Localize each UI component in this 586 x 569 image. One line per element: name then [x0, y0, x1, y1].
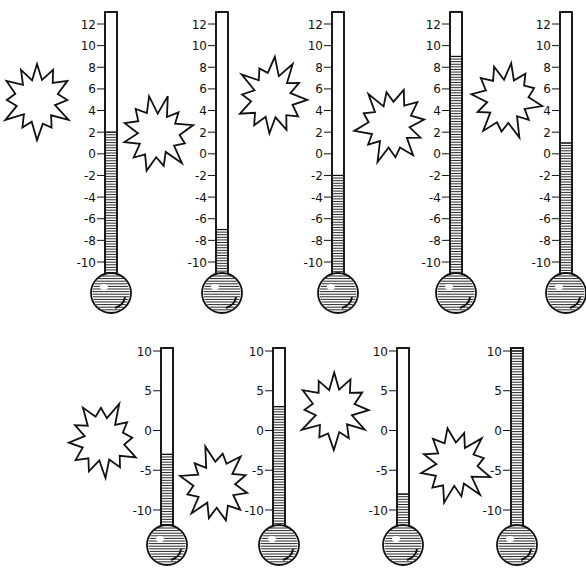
scale-label: 6: [433, 82, 441, 96]
mercury-column: [274, 407, 284, 527]
scale-label: -4: [539, 191, 551, 205]
scale-label: 0: [315, 147, 323, 161]
scale-label: 12: [308, 18, 323, 32]
scale-label: 2: [199, 126, 207, 140]
scale-label: -6: [195, 212, 207, 226]
scale-label: 12: [426, 18, 441, 32]
scale-label: 0: [256, 424, 264, 438]
scale-label: 5: [494, 384, 502, 398]
scale-label: -5: [140, 464, 152, 478]
scale-label: 6: [315, 82, 323, 96]
scale-label: 5: [144, 384, 152, 398]
bulb-icon: [546, 273, 586, 313]
scale-label: 5: [256, 384, 264, 398]
scale-label: 0: [433, 147, 441, 161]
scale-label: 2: [433, 126, 441, 140]
scale-label: 10: [249, 345, 264, 359]
scale-label: 0: [380, 424, 388, 438]
scale-label: -5: [376, 464, 388, 478]
thermometer-9: 1050-5-10: [482, 345, 537, 566]
thermometer-7: 1050-5-10: [244, 345, 299, 566]
bulb-icon: [436, 273, 476, 313]
scale-label: -8: [429, 234, 441, 248]
scale-label: -2: [84, 169, 96, 183]
scale-label: 10: [426, 39, 441, 53]
scale-label: 10: [137, 345, 152, 359]
bulb-icon: [497, 525, 537, 565]
scale-label: 0: [199, 147, 207, 161]
scale-label: 10: [81, 39, 96, 53]
scale-label: 12: [81, 18, 96, 32]
answer-burst-5: [472, 63, 543, 137]
scale-label: 10: [536, 39, 551, 53]
scale: 121086420-2-4-6-8-10: [76, 18, 105, 270]
scale-label: -2: [311, 169, 323, 183]
scale-label: 10: [487, 345, 502, 359]
scale-label: 0: [88, 147, 96, 161]
scale-label: -10: [531, 256, 551, 270]
scale: 121086420-2-4-6-8-10: [303, 18, 332, 270]
scale-label: 8: [199, 61, 207, 75]
scale: 1050-5-10: [368, 345, 397, 518]
scale: 121086420-2-4-6-8-10: [187, 18, 216, 270]
scale-label: 2: [315, 126, 323, 140]
bulb-icon: [318, 273, 358, 313]
scale-label: -5: [490, 464, 502, 478]
bulb-icon: [202, 273, 242, 313]
scale-label: -6: [539, 212, 551, 226]
scale-label: 6: [88, 82, 96, 96]
answer-burst-1: [5, 64, 68, 140]
thermometer-1: 121086420-2-4-6-8-10: [76, 12, 131, 313]
scale-label: -8: [195, 234, 207, 248]
scale-label: 0: [144, 424, 152, 438]
scale-label: -4: [429, 191, 441, 205]
scale-label: 6: [199, 82, 207, 96]
thermometer-3: 121086420-2-4-6-8-10: [303, 12, 358, 313]
scale-label: -6: [84, 212, 96, 226]
scale-label: 6: [543, 82, 551, 96]
thermometer-2: 121086420-2-4-6-8-10: [187, 12, 242, 313]
bulb-icon: [259, 525, 299, 565]
scale: 1050-5-10: [132, 345, 161, 518]
scale-label: 4: [199, 104, 207, 118]
scale-label: -2: [429, 169, 441, 183]
scale-label: 0: [543, 147, 551, 161]
scale-label: 4: [543, 104, 551, 118]
thermometer-4: 121086420-2-4-6-8-10: [421, 12, 476, 313]
scale-label: 4: [88, 104, 96, 118]
scale: 1050-5-10: [482, 345, 511, 518]
scale: 121086420-2-4-6-8-10: [421, 18, 450, 270]
scale-label: 10: [192, 39, 207, 53]
scale-label: -10: [368, 504, 388, 518]
answer-burst-6: [69, 404, 136, 478]
answer-burst-9: [421, 428, 490, 502]
scale-label: 4: [433, 104, 441, 118]
scale-label: 5: [380, 384, 388, 398]
scale-label: 8: [543, 61, 551, 75]
scale-label: -4: [84, 191, 96, 205]
answer-burst-4: [354, 90, 424, 162]
scale-label: -2: [195, 169, 207, 183]
scale-label: 0: [494, 424, 502, 438]
thermometer-6: 1050-5-10: [132, 345, 187, 566]
bulb-icon: [147, 525, 187, 565]
thermometer-8: 1050-5-10: [368, 345, 423, 566]
bulb-icon: [91, 273, 131, 313]
scale-label: 8: [315, 61, 323, 75]
thermometer-worksheet: 121086420-2-4-6-8-10121086420-2-4-6-8-10…: [0, 0, 586, 569]
answer-burst-2: [124, 96, 193, 171]
answer-burst-8: [302, 373, 369, 451]
scale-label: -10: [132, 504, 152, 518]
scale-label: -8: [539, 234, 551, 248]
scale-label: -2: [539, 169, 551, 183]
scale-label: -5: [252, 464, 264, 478]
scale-label: -6: [429, 212, 441, 226]
scale-label: -10: [244, 504, 264, 518]
scale-label: -8: [84, 234, 96, 248]
scale-label: -10: [303, 256, 323, 270]
scale-label: 10: [308, 39, 323, 53]
answer-burst-3: [240, 57, 307, 134]
scale-label: -4: [195, 191, 207, 205]
scale-label: -10: [421, 256, 441, 270]
scale-label: 12: [192, 18, 207, 32]
